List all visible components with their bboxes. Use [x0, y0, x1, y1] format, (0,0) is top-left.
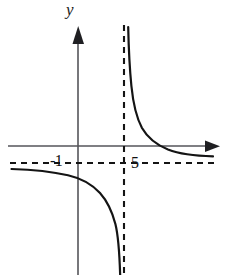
plot-background: [0, 0, 229, 275]
x-tick-label-five: 5: [131, 155, 139, 171]
y-axis-label: y: [66, 1, 74, 18]
y-tick-label-negative-one: -1: [50, 153, 62, 169]
plot-canvas: [0, 0, 229, 275]
graph-figure: y -1 5: [0, 0, 229, 275]
